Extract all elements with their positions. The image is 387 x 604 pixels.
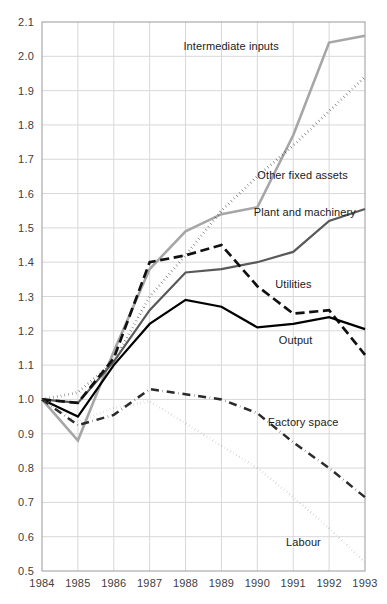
y-axis-tick-label: 1.1 xyxy=(18,359,34,371)
x-axis-tick-label: 1992 xyxy=(316,577,341,589)
series-lines-group xyxy=(42,36,365,563)
y-axis-tick-label: 1.2 xyxy=(18,325,34,337)
series-label-utilities: Utilities xyxy=(275,278,312,290)
y-axis-tick-label: 2.1 xyxy=(18,16,34,28)
y-axis-tick-labels: 0.50.60.70.80.91.01.11.21.31.41.51.61.71… xyxy=(18,16,34,577)
series-label-labour: Labour xyxy=(286,536,321,548)
x-axis-tick-label: 1989 xyxy=(209,577,234,589)
series-label-other-fixed-assets: Other fixed assets xyxy=(257,169,348,181)
series-line-utilities xyxy=(42,245,365,403)
y-axis-tick-label: 0.8 xyxy=(18,462,34,474)
horizontal-gridlines xyxy=(42,56,365,536)
y-axis-tick-label: 1.9 xyxy=(18,85,34,97)
series-line-factory-space xyxy=(42,389,365,497)
series-line-plant-and-machinery xyxy=(42,209,365,403)
series-label-plant-and-machinery: Plant and machinery xyxy=(254,206,357,218)
x-axis-tick-label: 1987 xyxy=(137,577,162,589)
y-axis-tick-label: 1.7 xyxy=(18,153,34,165)
chart-container: 0.50.60.70.80.91.01.11.21.31.41.51.61.71… xyxy=(0,0,387,604)
line-chart: 0.50.60.70.80.91.01.11.21.31.41.51.61.71… xyxy=(0,0,387,604)
y-axis-tick-label: 0.5 xyxy=(18,565,34,577)
y-axis-tick-label: 0.9 xyxy=(18,428,34,440)
y-axis-tick-label: 1.6 xyxy=(18,188,34,200)
series-label-output: Output xyxy=(279,334,313,346)
x-axis-tick-label: 1988 xyxy=(173,577,198,589)
y-axis-tick-label: 2.0 xyxy=(18,50,34,62)
y-axis-tick-label: 1.4 xyxy=(18,256,34,268)
x-axis-tick-label: 1993 xyxy=(352,577,377,589)
series-label-factory-space: Factory space xyxy=(268,416,338,428)
x-axis-tick-label: 1985 xyxy=(65,577,90,589)
y-axis-tick-label: 1.3 xyxy=(18,291,34,303)
series-annotation-labels: Intermediate inputsOther fixed assetsPla… xyxy=(183,40,356,548)
x-axis-tick-label: 1991 xyxy=(281,577,306,589)
y-axis-tick-label: 0.7 xyxy=(18,496,34,508)
x-axis-tick-labels: 1984198519861987198819891990199119921993 xyxy=(29,577,377,589)
y-axis-tick-label: 1.8 xyxy=(18,119,34,131)
x-axis-tick-label: 1990 xyxy=(245,577,270,589)
y-axis-tick-label: 0.6 xyxy=(18,531,34,543)
y-axis-tick-label: 1.5 xyxy=(18,222,34,234)
x-axis-tick-label: 1986 xyxy=(101,577,126,589)
series-line-intermediate-inputs xyxy=(42,36,365,441)
series-label-intermediate-inputs: Intermediate inputs xyxy=(183,40,279,52)
y-axis-tick-label: 1.0 xyxy=(18,393,34,405)
x-axis-tick-label: 1984 xyxy=(29,577,54,589)
